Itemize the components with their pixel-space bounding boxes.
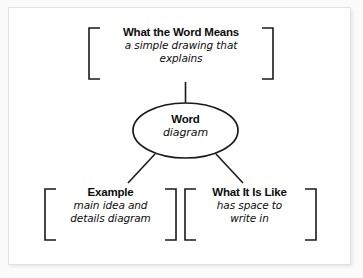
connector-center-to-bottom-right	[216, 154, 243, 183]
node-what-the-word-means: What the Word Means a simple drawing tha…	[103, 26, 259, 65]
node-body-line: explains	[103, 52, 259, 65]
node-body-what-it-is-like: has space to write in	[190, 199, 309, 225]
node-title-what-it-is-like: What It Is Like	[190, 186, 309, 199]
node-body-line: main idea and	[49, 199, 172, 212]
node-what-it-is-like: What It Is Like has space to write in	[190, 186, 309, 225]
node-title-center: Word	[135, 113, 236, 126]
node-body-line: a simple drawing that	[103, 39, 259, 52]
node-title-example: Example	[49, 186, 172, 199]
node-body-line: details diagram	[49, 212, 172, 225]
node-body-line: has space to	[190, 199, 309, 212]
node-center-word: Word diagram	[135, 113, 236, 139]
diagram-canvas: What the Word Means a simple drawing tha…	[0, 0, 363, 278]
node-body-example: main idea and details diagram	[49, 199, 172, 225]
bracket-left-top-group	[89, 28, 100, 79]
connector-center-to-bottom-left	[128, 154, 155, 183]
bracket-right-top-group	[262, 28, 273, 79]
node-title-what-the-word-means: What the Word Means	[103, 26, 259, 39]
node-body-line: write in	[190, 212, 309, 225]
node-example: Example main idea and details diagram	[49, 186, 172, 225]
node-body-center: diagram	[135, 126, 236, 139]
node-body-what-the-word-means: a simple drawing that explains	[103, 39, 259, 65]
